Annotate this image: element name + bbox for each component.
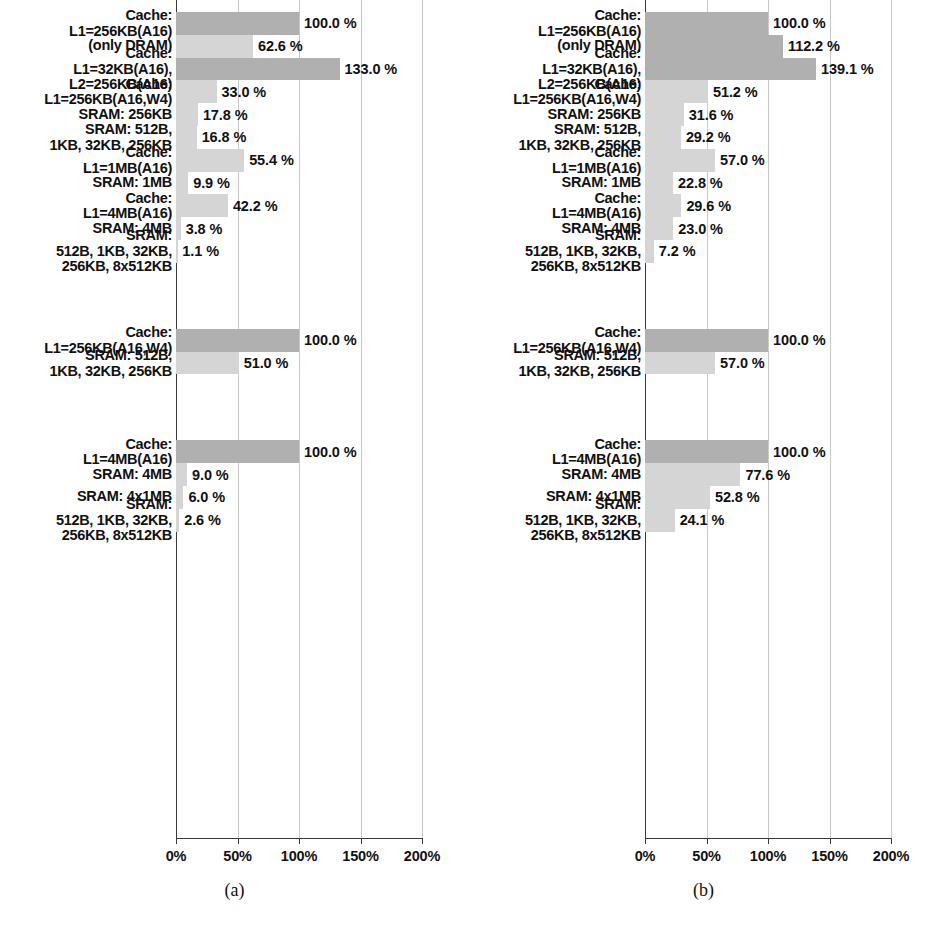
x-axis-tick xyxy=(176,838,177,844)
bar xyxy=(645,172,673,195)
bar-value-label: 100.0 % xyxy=(773,444,826,460)
bar-value-label: 22.8 % xyxy=(678,175,723,191)
x-axis-tick-label: 150% xyxy=(811,848,847,864)
x-axis-tick xyxy=(361,838,362,844)
bar xyxy=(645,509,675,532)
gridline xyxy=(891,0,892,838)
category-label: Cache: L1=4MB(A16) xyxy=(83,436,172,467)
bar xyxy=(645,463,740,486)
x-axis-tick xyxy=(707,838,708,844)
category-label-column: Cache: L1=256KB(A16)(only DRAM)Cache: L1… xyxy=(469,0,641,838)
bar xyxy=(645,194,681,217)
bar-value-label: 51.2 % xyxy=(713,84,758,100)
bar xyxy=(645,329,768,352)
category-label: SRAM: 4MB xyxy=(562,467,641,483)
x-axis-tick-label: 100% xyxy=(750,848,786,864)
x-axis-tick xyxy=(768,838,769,844)
bar xyxy=(645,126,681,149)
category-label: Cache: L1=256KB(A16,W4) xyxy=(44,76,172,107)
category-label: SRAM: 512B, 1KB, 32KB, 256KB xyxy=(518,348,641,379)
bar xyxy=(645,149,715,172)
bar xyxy=(176,509,179,532)
bar-value-label: 23.0 % xyxy=(678,221,723,237)
bar-value-label: 55.4 % xyxy=(249,152,294,168)
category-label: Cache: L1=256KB(A16,W4) xyxy=(513,76,641,107)
bar-value-label: 112.2 % xyxy=(788,38,840,54)
x-axis-tick xyxy=(299,838,300,844)
bar-value-label: 9.9 % xyxy=(193,175,230,191)
bar xyxy=(645,440,768,463)
bar xyxy=(176,352,239,375)
figure-bar-charts: Cache: L1=256KB(A16)(only DRAM)Cache: L1… xyxy=(0,0,938,932)
bar xyxy=(176,463,187,486)
bar-value-label: 100.0 % xyxy=(304,15,357,31)
bar xyxy=(645,35,783,58)
panel-b: Cache: L1=256KB(A16)(only DRAM)Cache: L1… xyxy=(469,0,938,932)
x-axis-tick xyxy=(238,838,239,844)
gridline xyxy=(707,0,708,838)
category-label-column: Cache: L1=256KB(A16)(only DRAM)Cache: L1… xyxy=(0,0,172,838)
category-label: SRAM: 512B, 1KB, 32KB, 256KB xyxy=(49,348,172,379)
bar-value-label: 42.2 % xyxy=(233,198,278,214)
bar xyxy=(645,240,654,263)
bar xyxy=(176,126,197,149)
bar xyxy=(176,103,198,126)
panel-a: Cache: L1=256KB(A16)(only DRAM)Cache: L1… xyxy=(0,0,469,932)
x-axis-tick-label: 50% xyxy=(223,848,251,864)
gridline xyxy=(299,0,300,838)
bar xyxy=(176,149,244,172)
bar xyxy=(176,172,188,195)
category-label: Cache: L1=4MB(A16) xyxy=(552,436,641,467)
category-label: Cache: L1=256KB(A16) xyxy=(69,8,172,39)
x-axis-tick-label: 50% xyxy=(692,848,720,864)
gridline xyxy=(768,0,769,838)
panel-caption: (a) xyxy=(0,880,469,901)
x-axis-tick-label: 200% xyxy=(873,848,909,864)
bar-value-label: 52.8 % xyxy=(715,489,760,505)
bar-value-label: 17.8 % xyxy=(203,107,248,123)
bar-value-label: 9.0 % xyxy=(192,467,229,483)
bar xyxy=(176,58,340,81)
x-axis-tick xyxy=(645,838,646,844)
panel-caption: (b) xyxy=(469,880,938,901)
bar-value-label: 2.6 % xyxy=(184,512,221,528)
bar xyxy=(645,12,768,35)
x-axis-tick xyxy=(891,838,892,844)
category-label: Cache: L1=1MB(A16) xyxy=(83,145,172,176)
bar-value-label: 6.0 % xyxy=(188,489,225,505)
bar xyxy=(176,486,183,509)
x-axis-tick-label: 100% xyxy=(281,848,317,864)
bar-value-label: 139.1 % xyxy=(821,61,874,77)
bar xyxy=(176,194,228,217)
x-axis-tick-label: 0% xyxy=(166,848,187,864)
bar xyxy=(645,58,816,81)
bar xyxy=(176,217,181,240)
bar-value-label: 57.0 % xyxy=(720,355,765,371)
category-label: Cache: L1=1MB(A16) xyxy=(552,145,641,176)
bar-value-label: 51.0 % xyxy=(244,355,289,371)
bar xyxy=(645,352,715,375)
bar xyxy=(176,12,299,35)
bar-value-label: 133.0 % xyxy=(345,61,398,77)
category-label: Cache: L1=256KB(A16) xyxy=(538,8,641,39)
bar xyxy=(176,240,178,263)
bar-value-label: 29.2 % xyxy=(686,129,731,145)
bar xyxy=(645,217,673,240)
bar-value-label: 57.0 % xyxy=(720,152,765,168)
bar-value-label: 100.0 % xyxy=(304,444,357,460)
bar-value-label: 7.2 % xyxy=(659,243,696,259)
x-axis-tick-label: 0% xyxy=(635,848,656,864)
bar-value-label: 16.8 % xyxy=(202,129,247,145)
category-label: SRAM: 512B, 1KB, 32KB, 256KB, 8x512KB xyxy=(525,228,641,275)
bar-value-label: 33.0 % xyxy=(222,84,267,100)
bar xyxy=(176,440,299,463)
category-label: SRAM: 4MB xyxy=(93,467,172,483)
bar xyxy=(176,329,299,352)
plot-area: 0%50%100%150%200%100.0 %112.2 %139.1 %51… xyxy=(645,0,891,838)
category-label: SRAM: 512B, 1KB, 32KB, 256KB, 8x512KB xyxy=(525,497,641,544)
category-label: Cache: L1=4MB(A16) xyxy=(83,190,172,221)
gridline xyxy=(238,0,239,838)
x-axis-tick-label: 200% xyxy=(404,848,440,864)
bar xyxy=(176,35,253,58)
bar-value-label: 29.6 % xyxy=(686,198,731,214)
